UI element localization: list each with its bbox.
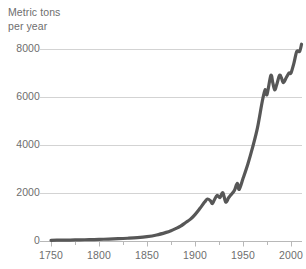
- y-tick-label-0: 0: [0, 235, 40, 246]
- y-tick-label-8000: 8000: [0, 43, 40, 54]
- y-tick-label-6000: 6000: [0, 91, 40, 102]
- x-axis-tick-marks: [52, 242, 292, 247]
- x-tick-label-1850: 1850: [127, 250, 167, 261]
- data-line-series-0: [51, 44, 302, 240]
- y-tick-label-2000: 2000: [0, 187, 40, 198]
- x-tick-label-2000: 2000: [271, 250, 306, 261]
- x-tick-label-1750: 1750: [31, 250, 71, 261]
- chart-container: Metric tonsper year 02000400060008000 17…: [0, 0, 306, 269]
- x-tick-label-1800: 1800: [79, 250, 119, 261]
- plot-area: [0, 0, 306, 269]
- gridlines: [40, 50, 302, 194]
- x-tick-label-1950: 1950: [223, 250, 263, 261]
- x-tick-label-1900: 1900: [175, 250, 215, 261]
- y-tick-label-4000: 4000: [0, 139, 40, 150]
- plot-svg: [0, 0, 306, 269]
